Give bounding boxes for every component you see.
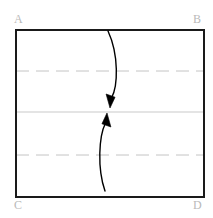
- figure-canvas: A B C D: [0, 0, 213, 218]
- outer-rectangle: [16, 30, 204, 197]
- corner-label-b: B: [193, 13, 201, 25]
- lower-fold-arrow-curve: [100, 123, 106, 191]
- corner-label-c: C: [14, 199, 22, 211]
- geometry-figure: [0, 0, 213, 218]
- lower-fold-arrow-head: [102, 113, 111, 127]
- corner-label-a: A: [14, 13, 23, 25]
- corner-label-d: D: [193, 199, 202, 211]
- upper-fold-arrow-head: [106, 94, 115, 108]
- upper-fold-arrow-curve: [108, 31, 116, 98]
